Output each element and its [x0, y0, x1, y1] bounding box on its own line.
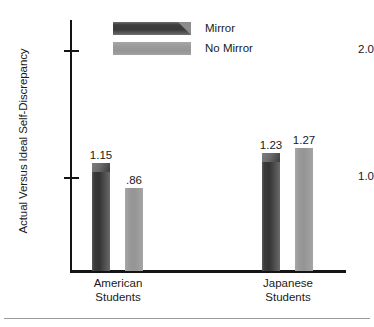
category-label-american-line1: American [63, 277, 173, 291]
legend-label-no-mirror: No Mirror [205, 42, 253, 54]
bar-value-american-no-mirror: .86 [114, 174, 154, 186]
y-tick-mark-2 [64, 50, 79, 52]
y-axis-title: Actual Versus Ideal Self-Discrepancy [14, 10, 32, 272]
bar-japanese-mirror [262, 153, 280, 271]
legend-swatch-no-mirror [113, 42, 191, 55]
category-label-american: American Students [63, 277, 173, 304]
category-label-japanese: Japanese Students [233, 277, 343, 304]
bar-chart: Actual Versus Ideal Self-Discrepancy 2.0… [0, 0, 374, 327]
y-tick-label-2: 2.0 [346, 44, 374, 55]
bar-american-mirror [92, 163, 110, 271]
bar-japanese-no-mirror [295, 148, 313, 271]
bar-american-no-mirror [125, 188, 143, 271]
category-label-japanese-line1: Japanese [233, 277, 343, 291]
bar-value-japanese-no-mirror: 1.27 [284, 134, 324, 146]
y-axis-line [70, 20, 72, 272]
legend-swatch-mirror [113, 22, 191, 35]
y-tick-label-1: 1.0 [346, 171, 374, 182]
category-label-japanese-line2: Students [233, 291, 343, 305]
category-label-american-line2: Students [63, 291, 173, 305]
y-tick-mark-1 [64, 177, 79, 179]
bar-value-american-mirror: 1.15 [81, 149, 121, 161]
footer-divider [4, 318, 370, 319]
legend-label-mirror: Mirror [205, 22, 235, 34]
